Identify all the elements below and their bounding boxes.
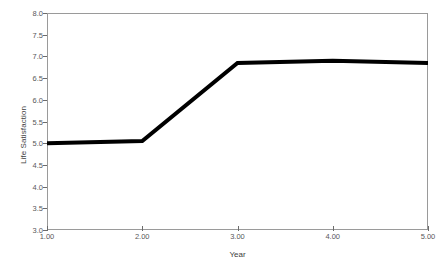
y-axis-tick-label: 6.5 [21, 74, 43, 83]
x-axis-tick-labels: 1.002.003.004.005.00 [47, 232, 428, 244]
y-axis-tick-label: 6.0 [21, 95, 43, 104]
line-chart: Life Satisfaction 3.03.54.04.55.05.56.06… [0, 0, 442, 270]
y-axis-tick-label: 4.0 [21, 182, 43, 191]
y-axis-tick-label: 5.5 [21, 117, 43, 126]
y-axis-tick-label: 8.0 [21, 9, 43, 18]
x-axis-tick-mark [333, 226, 334, 231]
y-axis-tick-label: 4.5 [21, 160, 43, 169]
y-axis-tick-label: 7.0 [21, 52, 43, 61]
x-axis-tick-label: 3.00 [218, 232, 258, 241]
x-axis-tick-label: 4.00 [313, 232, 353, 241]
life-satisfaction-line [47, 61, 428, 143]
x-axis-tick-mark [238, 226, 239, 231]
x-axis-tick-label: 1.00 [27, 232, 67, 241]
x-axis-tick-mark [428, 226, 429, 231]
y-axis-title-wrap: Life Satisfaction [2, 0, 18, 240]
x-axis-tick-mark [47, 226, 48, 231]
x-axis-tick-label: 5.00 [408, 232, 442, 241]
y-axis-tick-label: 7.5 [21, 30, 43, 39]
x-axis-tick-mark [142, 226, 143, 231]
data-series-line [47, 13, 428, 230]
x-axis-title: Year [47, 250, 428, 259]
y-axis-tick-labels: 3.03.54.04.55.05.56.06.57.07.58.0 [18, 13, 43, 230]
y-axis-tick-label: 5.0 [21, 139, 43, 148]
x-axis-tick-label: 2.00 [122, 232, 162, 241]
y-axis-tick-label: 3.5 [21, 204, 43, 213]
